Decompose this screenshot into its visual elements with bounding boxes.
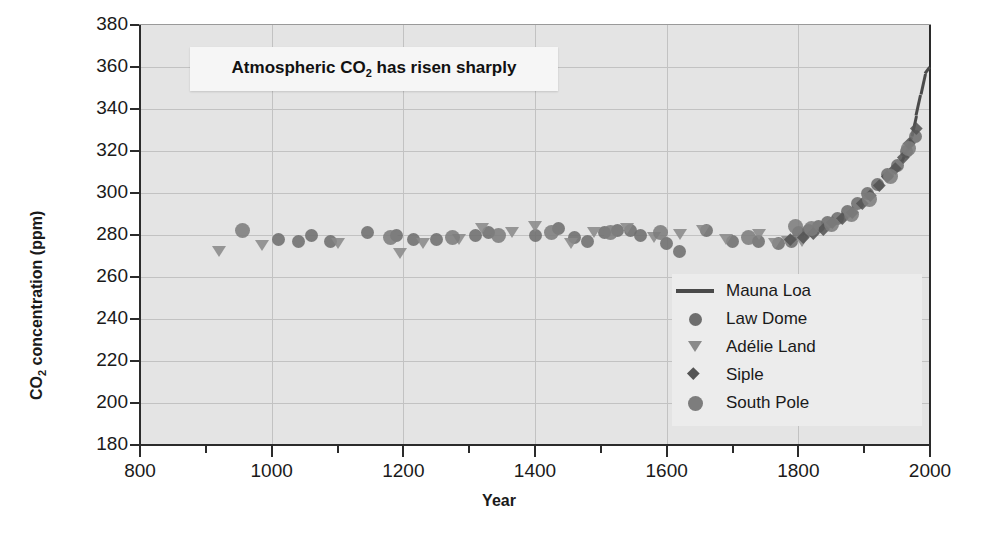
y-axis-tick-label: 240: [0, 308, 136, 327]
data-point: [653, 225, 668, 240]
data-point: [305, 229, 318, 242]
y-axis-title: CO2 concentration (ppm): [28, 211, 48, 400]
data-point: [445, 230, 460, 245]
data-point: [768, 238, 782, 249]
x-axis-tick-label: 1400: [514, 460, 556, 482]
data-point: [505, 227, 519, 238]
legend-marker-diamond-icon: [672, 362, 718, 388]
x-axis-tick-label: 1600: [646, 460, 688, 482]
legend-marker-circle-icon: [672, 306, 718, 332]
data-point: [788, 219, 803, 234]
data-point: [673, 229, 687, 240]
x-axis-tick-label: 1800: [777, 460, 819, 482]
legend-label: Siple: [726, 365, 764, 385]
legend-label: Mauna Loa: [726, 281, 811, 301]
y-axis-title-suffix: concentration (ppm): [28, 211, 45, 370]
y-axis-tick-label: 320: [0, 140, 136, 159]
data-point: [292, 235, 305, 248]
x-axis-tick-minor: [863, 446, 865, 453]
x-axis-tick-label: 1200: [382, 460, 424, 482]
callout-prefix: Atmospheric CO: [232, 58, 366, 77]
data-point: [475, 223, 489, 234]
legend-item[interactable]: Mauna Loa: [672, 278, 922, 304]
x-axis-tick: [402, 446, 404, 457]
y-axis-tick-label: 380: [0, 14, 136, 33]
y-axis-tick-label: 200: [0, 392, 136, 411]
x-axis-tick: [139, 446, 141, 457]
x-axis-tick: [534, 446, 536, 457]
y-axis-title-prefix: CO: [28, 376, 45, 400]
data-point: [564, 238, 578, 249]
x-axis-tick-minor: [205, 446, 207, 453]
x-axis-tick-label: 2000: [909, 460, 951, 482]
plot-frame-right: [929, 25, 931, 446]
data-point: [719, 234, 733, 245]
y-axis-tick-label: 180: [0, 434, 136, 453]
data-point: [862, 192, 877, 207]
legend-label: South Pole: [726, 393, 809, 413]
y-axis-tick-label: 260: [0, 266, 136, 285]
x-axis-tick-minor: [468, 446, 470, 453]
y-axis-tick-label: 280: [0, 224, 136, 243]
x-axis-tick: [929, 446, 931, 457]
x-axis-tick-label: 800: [124, 460, 156, 482]
legend-label: Law Dome: [726, 309, 807, 329]
y-axis-tick-label: 220: [0, 350, 136, 369]
y-axis-tick-label: 300: [0, 182, 136, 201]
co2-chart: 180200220240260280300320340360380 800100…: [0, 0, 998, 540]
x-axis-tick-minor: [732, 446, 734, 453]
data-point: [587, 227, 601, 238]
x-axis-title: Year: [0, 492, 998, 510]
data-point: [383, 230, 398, 245]
data-point: [528, 221, 542, 232]
data-point: [696, 225, 710, 236]
legend-label: Adélie Land: [726, 337, 816, 357]
data-point: [620, 223, 634, 234]
data-point: [416, 238, 430, 249]
data-point: [212, 246, 226, 257]
x-axis-tick: [271, 446, 273, 457]
data-point: [235, 223, 250, 238]
callout-box: Atmospheric CO2 has risen sharply: [190, 47, 558, 91]
x-axis-tick-label: 1000: [251, 460, 293, 482]
legend: Mauna LoaLaw DomeAdélie LandSipleSouth P…: [672, 274, 922, 426]
data-point: [491, 228, 506, 243]
legend-marker-line-icon: [672, 278, 718, 304]
legend-marker-triangle-down-icon: [672, 334, 718, 360]
data-point: [361, 226, 374, 239]
x-axis-tick: [666, 446, 668, 457]
data-point: [844, 207, 859, 222]
legend-item[interactable]: Adélie Land: [672, 334, 922, 360]
x-axis-tick: [797, 446, 799, 457]
y-axis-tick-label: 340: [0, 98, 136, 117]
data-point: [430, 233, 443, 246]
legend-item[interactable]: South Pole: [672, 390, 922, 416]
callout-suffix: has risen sharply: [372, 58, 517, 77]
plot-frame-top: [139, 24, 931, 25]
data-point: [393, 248, 407, 259]
data-point: [824, 217, 839, 232]
legend-marker-circle-icon: [672, 390, 718, 416]
x-axis-tick-minor: [337, 446, 339, 453]
data-point: [272, 233, 285, 246]
legend-item[interactable]: Siple: [672, 362, 922, 388]
data-point: [634, 229, 647, 242]
plot-frame-left: [139, 25, 141, 446]
y-axis-title-sub: 2: [36, 370, 48, 376]
data-point: [741, 230, 756, 245]
data-point: [331, 238, 345, 249]
y-axis-tick-label: 360: [0, 56, 136, 75]
callout-text: Atmospheric CO2 has risen sharply: [232, 58, 517, 79]
data-point: [883, 169, 898, 184]
data-point: [255, 240, 269, 251]
legend-item[interactable]: Law Dome: [672, 306, 922, 332]
x-axis-tick-minor: [600, 446, 602, 453]
